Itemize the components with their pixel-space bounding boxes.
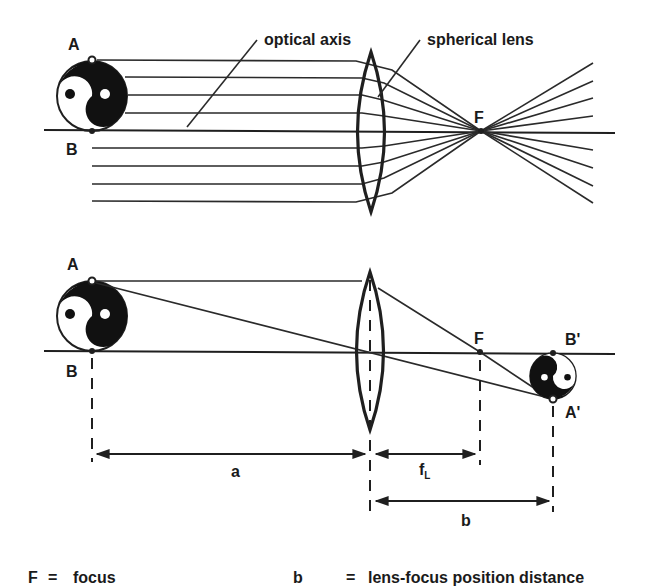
label-optical-axis: optical axis [264, 31, 351, 48]
label-distance-b: b [461, 512, 471, 529]
point-a-marker [89, 57, 96, 64]
point-a-marker-bottom [89, 278, 96, 285]
optics-lens-diagram: A B F [0, 0, 649, 587]
legend-item-b: b = lens-focus position distance [293, 569, 584, 586]
object-yinyang-icon-bottom [57, 281, 127, 351]
focus-point-marker [478, 128, 484, 134]
bottom-diagram: A B F B' A' a fL [44, 256, 615, 529]
top-diagram: A B F [44, 31, 615, 212]
legend-symbol-f: F [28, 569, 38, 586]
legend-symbol-b: b [293, 569, 303, 586]
label-image-b: B' [565, 331, 580, 348]
image-forming-rays [96, 281, 553, 399]
label-focus-bottom: F [474, 330, 484, 347]
legend: F = focus b = lens-focus position distan… [28, 569, 584, 586]
label-point-a: A [68, 36, 80, 53]
label-spherical-lens: spherical lens [427, 31, 534, 48]
object-yinyang-icon [57, 61, 127, 131]
image-yinyang-icon [530, 353, 576, 399]
optical-axis-line-bottom [44, 351, 615, 354]
label-image-a: A' [565, 404, 580, 421]
legend-text-focus: focus [73, 569, 116, 586]
legend-eq-f: = [48, 569, 57, 586]
legend-item-focus: F = focus [28, 569, 116, 586]
label-point-a-bottom: A [67, 256, 79, 273]
label-point-b: B [66, 141, 78, 158]
legend-eq-b: = [346, 569, 355, 586]
label-focal-length: fL [419, 461, 430, 481]
label-distance-a: a [231, 463, 240, 480]
image-b-marker [550, 350, 556, 356]
image-a-marker [550, 396, 557, 403]
label-focal-length-sub: L [424, 470, 430, 481]
focus-point-marker-bottom [477, 349, 483, 355]
optical-axis-pointer [187, 40, 257, 127]
label-point-b-bottom: B [66, 363, 78, 380]
legend-text-b: lens-focus position distance [368, 569, 584, 586]
optical-axis-line [44, 130, 615, 133]
label-focus-top: F [474, 109, 484, 126]
